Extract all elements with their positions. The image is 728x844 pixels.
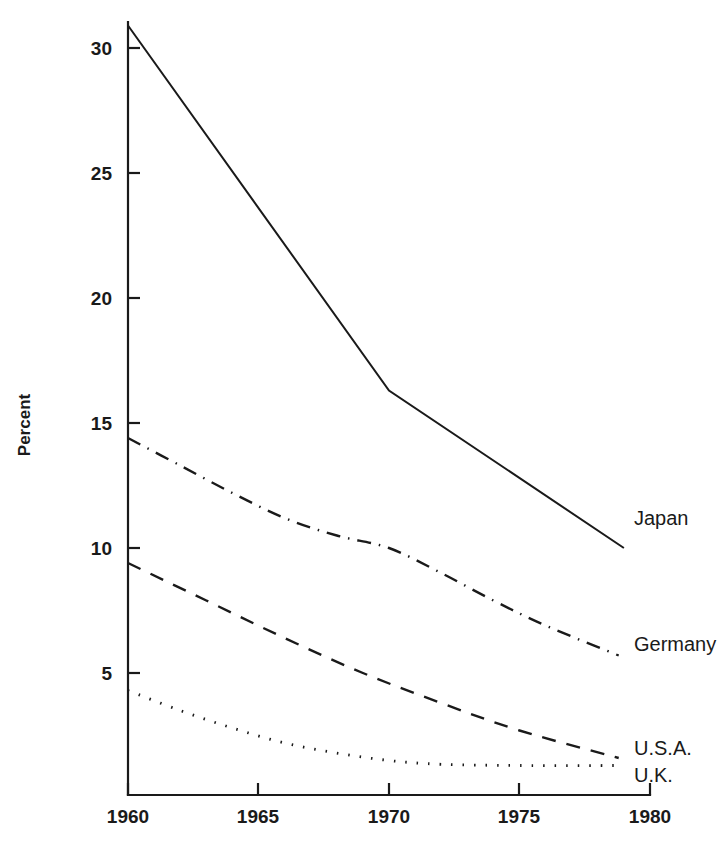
y-tick-label-15: 15 [91, 413, 113, 434]
y-tick-label-5: 5 [101, 663, 112, 684]
y-tick-label-10: 10 [91, 538, 112, 559]
series-label-germany: Germany [634, 633, 716, 655]
x-tick-label-1965: 1965 [237, 806, 280, 827]
x-tick-label-1960: 1960 [107, 806, 149, 827]
series-line-germany [128, 438, 619, 656]
x-tick-label-1980: 1980 [629, 806, 671, 827]
x-tick-label-1970: 1970 [368, 806, 410, 827]
y-tick-label-20: 20 [91, 288, 112, 309]
y-tick-label-30: 30 [91, 38, 112, 59]
y-axis-title: Percent [15, 393, 34, 456]
line-chart-plot: Percent 30 25 20 15 10 5 1960 1965 1970 … [0, 0, 728, 844]
y-tick-label-25: 25 [91, 163, 113, 184]
series-label-usa: U.S.A. [634, 737, 692, 759]
chart-figure: Percent 30 25 20 15 10 5 1960 1965 1970 … [0, 0, 728, 844]
series-line-usa [128, 563, 619, 758]
series-label-japan: Japan [634, 507, 689, 529]
series-label-uk: U.K. [634, 764, 673, 786]
x-tick-label-1975: 1975 [498, 806, 541, 827]
series-line-japan [128, 26, 624, 549]
series-line-uk [128, 691, 619, 766]
